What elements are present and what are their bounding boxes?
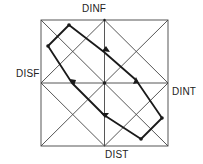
vertex-right (160, 116, 164, 120)
label-disf: DISF (16, 68, 40, 79)
label-dint: DINT (172, 86, 196, 97)
center-point (103, 81, 107, 85)
label-dinf: DINF (82, 3, 106, 14)
diagram-canvas (0, 0, 203, 164)
arrow-upper-down-right (102, 46, 110, 52)
vertex-top (67, 23, 71, 27)
top-mid-point (103, 19, 105, 21)
vertex-bottom (139, 137, 143, 141)
label-dist: DIST (105, 149, 129, 160)
vertex-left (46, 44, 50, 48)
